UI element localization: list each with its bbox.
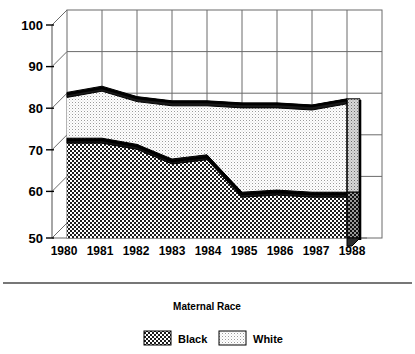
x-tick-label: 1981 xyxy=(87,244,114,258)
y-tick-label: 50 xyxy=(29,231,43,246)
x-tick-label: 1987 xyxy=(303,244,330,258)
dark-checker-swatch xyxy=(144,331,171,345)
black-right-face xyxy=(347,192,360,238)
chart-container: 100 90 80 70 60 50 xyxy=(0,0,415,354)
x-tick-label: 1982 xyxy=(123,244,150,258)
legend-item-black[interactable]: Black xyxy=(144,331,208,345)
y-tick-label: 70 xyxy=(29,143,43,158)
white-right-face xyxy=(347,99,360,192)
y-axis-labels: 100 90 80 70 60 50 xyxy=(21,18,43,246)
legend-title: Maternal Race xyxy=(173,301,241,312)
legend-item-white[interactable]: White xyxy=(219,331,283,345)
area-chart-figure: 100 90 80 70 60 50 xyxy=(0,0,415,354)
y-axis-ticks xyxy=(46,25,54,238)
legend-label-white: White xyxy=(253,333,283,345)
x-tick-label: 1985 xyxy=(231,244,258,258)
x-tick-label: 1984 xyxy=(195,244,222,258)
x-axis-labels: 1980 1981 1982 1983 1984 1985 1986 1987 … xyxy=(51,244,366,258)
x-tick-label: 1986 xyxy=(267,244,294,258)
legend: Maternal Race Black White xyxy=(144,301,283,345)
x-tick-label: 1988 xyxy=(339,244,366,258)
y-tick-label: 60 xyxy=(29,184,43,199)
x-tick-label: 1983 xyxy=(159,244,186,258)
light-dot-swatch xyxy=(219,331,246,345)
y-tick-label: 80 xyxy=(29,101,43,116)
x-tick-label: 1980 xyxy=(51,244,78,258)
legend-label-black: Black xyxy=(178,333,208,345)
y-tick-label: 100 xyxy=(21,18,43,33)
y-tick-label: 90 xyxy=(29,59,43,74)
